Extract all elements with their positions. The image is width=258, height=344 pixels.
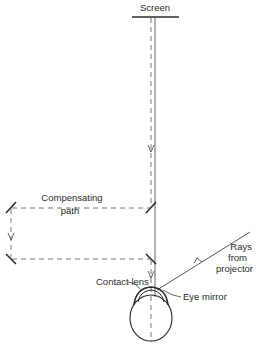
mirror-upper-right <box>146 202 156 213</box>
rays-label-line1: Rays <box>230 241 252 252</box>
screen: Screen <box>132 2 179 17</box>
compensating-label-line1: Compensating <box>41 192 102 203</box>
rays-label-line3: projector <box>216 263 253 274</box>
eye-mirror-label: Eye mirror <box>183 291 227 302</box>
compensating-label-line2: path <box>61 205 80 216</box>
contact-lens-label: Contact lens <box>96 276 149 287</box>
rays-label-line2: from <box>228 252 247 263</box>
optical-diagram: Screen Compensating path Rays from proje… <box>0 0 258 344</box>
screen-label: Screen <box>140 2 170 13</box>
